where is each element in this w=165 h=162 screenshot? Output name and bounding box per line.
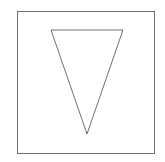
inverted-triangle	[51, 30, 123, 134]
diagram-canvas	[0, 0, 165, 162]
